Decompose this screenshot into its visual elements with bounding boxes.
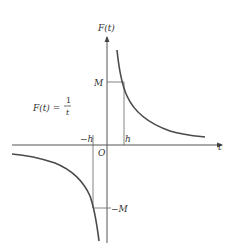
formula-lhs: F(t) =: [32, 103, 60, 113]
formula-numerator: 1: [66, 96, 71, 105]
m-label: M: [93, 78, 104, 88]
curve-negative-branch: [12, 154, 99, 241]
neg-h-label: −h: [80, 134, 93, 144]
origin-label: O: [98, 148, 106, 158]
y-axis-label: F(t): [97, 23, 115, 33]
x-axis-label: t: [218, 142, 222, 152]
neg-m-label: −M: [111, 204, 129, 214]
h-label: h: [125, 134, 131, 144]
curve-positive-branch: [117, 50, 205, 137]
reciprocal-function-diagram: F(t) t M −M h −h O F(t) = 1 t: [0, 0, 234, 251]
function-formula: F(t) = 1 t: [32, 96, 71, 117]
formula-denominator: t: [66, 108, 70, 117]
